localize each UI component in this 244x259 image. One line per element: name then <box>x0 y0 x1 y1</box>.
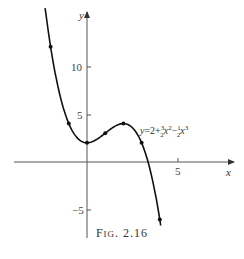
x-tick-label-5: 5 <box>175 165 181 177</box>
cubic-curve <box>45 8 161 225</box>
y-tick-label-10: 10 <box>71 61 83 73</box>
equation-label: y=2+32x2−12x3 <box>139 124 189 139</box>
data-point <box>49 45 53 49</box>
figure-caption: FIG. 2.16 <box>0 226 244 241</box>
data-point <box>140 141 144 145</box>
chart: 5 10 5 −5 y x y=2+32x2−12x3 <box>0 0 244 259</box>
data-point <box>85 141 89 145</box>
data-point <box>67 122 71 126</box>
data-point <box>121 122 125 126</box>
x-axis-label: x <box>225 166 231 178</box>
y-tick-label-5: 5 <box>77 109 83 121</box>
y-tick-label-neg5: −5 <box>72 204 84 216</box>
data-point <box>103 131 107 135</box>
data-point <box>158 218 162 222</box>
y-axis-label: y <box>78 9 84 21</box>
